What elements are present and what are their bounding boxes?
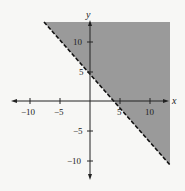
x-tick-label: −5 — [54, 107, 64, 117]
y-axis-down-arrow — [88, 174, 92, 180]
x-tick-label: 10 — [145, 107, 155, 117]
y-tick-label: 5 — [79, 67, 84, 77]
x-tick-label: 5 — [117, 107, 122, 117]
y-tick-label: −10 — [67, 156, 82, 166]
x-axis-label: x — [171, 95, 177, 106]
y-tick-label: −5 — [73, 126, 83, 136]
y-axis-label: y — [85, 9, 91, 20]
y-tick-label: 10 — [73, 37, 83, 47]
x-axis-left-arrow — [11, 99, 17, 103]
x-tick-label: −10 — [21, 107, 36, 117]
inequality-plot: x y −10 −5 5 10 10 5 −5 −10 — [0, 0, 185, 191]
